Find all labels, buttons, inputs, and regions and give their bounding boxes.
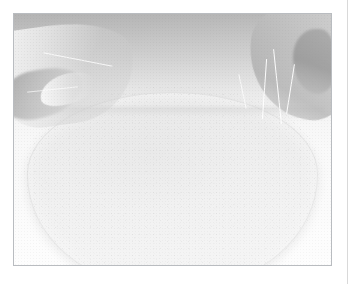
photograph-frame (13, 13, 332, 266)
film-grain-overlay (14, 14, 331, 265)
document-page (0, 0, 355, 284)
page-edge-rule (347, 0, 348, 284)
photograph-image (14, 14, 331, 265)
